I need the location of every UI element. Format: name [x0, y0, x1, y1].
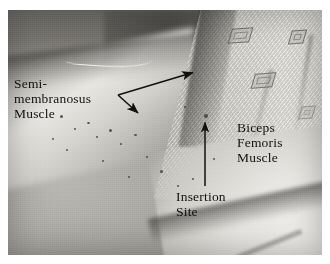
anatomy-figure: Semi- membranosus Muscle Biceps Femoris … [0, 0, 330, 264]
label-insertion-site: Insertion Site [176, 189, 226, 219]
semimembranosus-pointer [118, 73, 193, 114]
annotation-layer: Semi- membranosus Muscle Biceps Femoris … [0, 0, 330, 264]
label-biceps-femoris-muscle: Biceps Femoris Muscle [237, 120, 283, 165]
label-semimembranosus-muscle: Semi- membranosus Muscle [14, 76, 91, 121]
